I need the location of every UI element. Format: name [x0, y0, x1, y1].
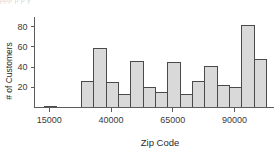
histogram-bar — [205, 66, 217, 108]
y-axis-title: # of Customers — [4, 42, 14, 100]
histogram-bar — [168, 62, 180, 108]
histogram-bar — [106, 82, 118, 107]
histogram-figure: ppp p p y 2040608015000400006500090000 #… — [0, 0, 278, 154]
chart-canvas: 2040608015000400006500090000 # of Custom… — [0, 9, 278, 154]
histogram-bar — [94, 49, 106, 108]
histogram-bar — [118, 94, 130, 107]
y-tick-label: 60 — [17, 42, 27, 52]
histogram-bar — [254, 59, 266, 108]
y-tick-label: 40 — [17, 62, 27, 72]
x-axis-title: Zip Code — [141, 137, 180, 148]
x-tick-label: 15000 — [37, 115, 62, 125]
histogram-bar — [230, 87, 242, 107]
histogram-bar — [217, 85, 229, 107]
x-tick-label: 90000 — [222, 115, 247, 125]
histogram-bar — [143, 87, 155, 107]
plot-area: 2040608015000400006500090000 # of Custom… — [0, 9, 278, 154]
bars-layer — [44, 26, 266, 108]
histogram-bar — [131, 61, 143, 108]
y-tick-label: 20 — [17, 82, 27, 92]
y-tick-label: 80 — [17, 22, 27, 32]
cropped-caption-strip: ppp p p y — [0, 0, 278, 9]
x-tick-label: 40000 — [99, 115, 124, 125]
histogram-bar — [81, 81, 93, 107]
x-tick-label: 65000 — [160, 115, 185, 125]
cropped-caption-text: ppp p p y — [0, 0, 31, 4]
histogram-bar — [156, 92, 168, 107]
histogram-bar — [242, 26, 254, 108]
histogram-bar — [193, 81, 205, 107]
histogram-bar — [180, 94, 192, 107]
